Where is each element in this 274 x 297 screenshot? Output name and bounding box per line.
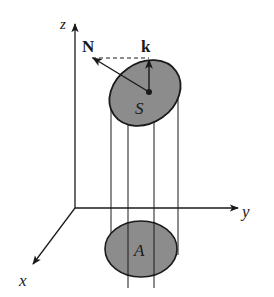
k-vector-label: k [141, 37, 151, 56]
diagram-svg: z y x N k S A [0, 0, 274, 297]
surface-point [146, 89, 152, 95]
normal-vector-label: N [82, 37, 95, 56]
surface-label: S [135, 99, 144, 118]
z-axis-label: z [59, 16, 66, 32]
x-axis-label: x [18, 271, 27, 290]
surface-projection-diagram: z y x N k S A [0, 0, 274, 297]
x-axis [33, 208, 75, 264]
projection-label: A [133, 241, 145, 260]
y-axis-label: y [240, 202, 250, 221]
